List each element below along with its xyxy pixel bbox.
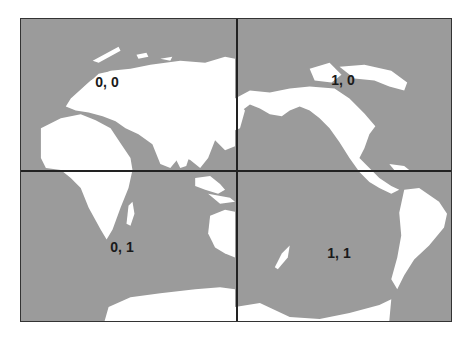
australia-landmass bbox=[208, 210, 235, 258]
grid-divider-horizontal bbox=[21, 170, 451, 172]
antarctica-landmass bbox=[105, 287, 392, 321]
south-america-landmass bbox=[391, 188, 447, 289]
madagascar-landmass bbox=[127, 202, 135, 226]
new-zealand-landmass bbox=[275, 246, 290, 270]
tile-label-0-0: 0, 0 bbox=[95, 74, 118, 90]
arctic-islands bbox=[93, 47, 173, 63]
tile-label-0-1: 0, 1 bbox=[110, 239, 133, 255]
tile-label-1-0: 1, 0 bbox=[331, 72, 354, 88]
africa-landmass bbox=[41, 114, 133, 239]
north-america-landmass bbox=[235, 87, 399, 194]
tile-label-1-1: 1, 1 bbox=[327, 245, 350, 261]
southeast-asia-islands bbox=[195, 176, 235, 204]
world-map[interactable]: 0, 0 1, 0 0, 1 1, 1 bbox=[20, 18, 452, 322]
